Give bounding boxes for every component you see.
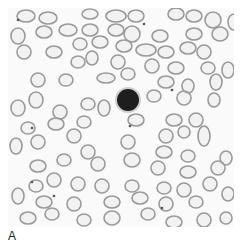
- red-blood-cell: [71, 177, 85, 191]
- platelet: [143, 23, 146, 26]
- platelet: [31, 181, 34, 184]
- red-blood-cell: [82, 24, 98, 36]
- red-blood-cell: [203, 177, 217, 191]
- red-blood-cell: [47, 173, 61, 187]
- red-blood-cell: [220, 212, 232, 224]
- red-blood-cell: [31, 73, 45, 87]
- red-blood-cell: [186, 28, 202, 40]
- red-blood-cell: [12, 188, 24, 204]
- red-blood-cell: [31, 135, 45, 149]
- red-blood-cell: [82, 9, 98, 19]
- red-blood-cell: [71, 56, 85, 68]
- red-blood-cell: [128, 114, 144, 126]
- red-blood-cell: [121, 68, 135, 80]
- red-blood-cell: [98, 100, 110, 116]
- red-blood-cell: [210, 74, 222, 90]
- red-blood-cell: [136, 44, 156, 56]
- blood-smear-image: [8, 8, 234, 227]
- red-blood-cell: [125, 180, 139, 192]
- red-blood-cell: [180, 166, 196, 178]
- red-blood-cell: [67, 197, 81, 211]
- red-blood-cell: [57, 154, 71, 166]
- micrograph-canvas: [8, 8, 234, 227]
- red-blood-cell: [17, 10, 35, 22]
- red-blood-cell: [95, 179, 109, 193]
- red-blood-cell: [180, 42, 196, 54]
- red-blood-cell: [205, 12, 221, 28]
- red-blood-cell: [124, 153, 140, 167]
- red-blood-cell: [36, 196, 52, 208]
- red-blood-cell: [212, 27, 228, 41]
- platelet: [171, 89, 174, 92]
- red-blood-cell: [77, 116, 91, 128]
- red-blood-cell: [211, 161, 225, 175]
- red-blood-cell: [104, 211, 120, 225]
- red-blood-cell: [36, 26, 52, 38]
- red-blood-cell: [157, 182, 171, 194]
- red-blood-cell: [132, 192, 148, 204]
- red-blood-cell: [73, 38, 87, 50]
- red-blood-cell: [197, 213, 211, 227]
- red-blood-cell: [198, 126, 210, 146]
- red-blood-cell: [59, 24, 77, 36]
- red-blood-cell: [141, 208, 155, 220]
- red-blood-cell: [86, 51, 98, 65]
- red-blood-cell: [116, 40, 132, 52]
- red-blood-cell: [152, 30, 168, 42]
- red-blood-cell: [158, 76, 174, 88]
- red-blood-cell: [181, 150, 195, 162]
- red-blood-cell: [39, 12, 57, 24]
- red-blood-cell: [45, 208, 59, 220]
- red-blood-cell: [151, 161, 165, 175]
- red-blood-cell: [20, 212, 36, 224]
- red-blood-cell: [177, 91, 191, 105]
- red-blood-cell: [166, 216, 182, 227]
- red-blood-cell: [208, 93, 220, 107]
- red-blood-cell: [177, 183, 191, 197]
- red-blood-cell: [201, 62, 215, 74]
- red-blood-cell: [91, 157, 105, 171]
- red-blood-cell: [189, 196, 203, 208]
- red-blood-cell: [168, 8, 184, 20]
- red-blood-cell: [10, 138, 22, 154]
- red-blood-cell: [81, 145, 95, 159]
- red-blood-cell: [106, 10, 126, 22]
- red-blood-cell: [92, 36, 108, 48]
- red-blood-cell: [48, 118, 64, 130]
- red-blood-cell: [159, 129, 173, 143]
- platelet: [129, 125, 132, 128]
- panel-label: A: [8, 229, 16, 243]
- red-blood-cell: [67, 129, 81, 143]
- red-blood-cell: [11, 28, 25, 44]
- red-blood-cell: [128, 10, 144, 22]
- red-blood-cell: [197, 45, 211, 59]
- red-blood-cell: [158, 46, 174, 58]
- red-blood-cell: [108, 24, 124, 36]
- red-blood-cell: [17, 45, 31, 59]
- red-blood-cell: [168, 62, 184, 74]
- red-blood-cell: [53, 105, 67, 119]
- platelet: [31, 127, 34, 130]
- red-blood-cell: [77, 214, 91, 226]
- red-blood-cell: [228, 14, 234, 30]
- red-blood-cell: [186, 10, 202, 22]
- red-blood-cell: [189, 113, 203, 127]
- platelet: [53, 195, 56, 198]
- red-blood-cell: [111, 55, 125, 69]
- red-blood-cell: [46, 46, 62, 58]
- red-blood-cell: [30, 160, 46, 172]
- red-blood-cell: [97, 73, 115, 83]
- red-blood-cell: [147, 90, 161, 102]
- red-blood-cell: [178, 126, 190, 138]
- red-blood-cell: [81, 98, 95, 110]
- red-blood-cell: [11, 100, 25, 116]
- platelet: [17, 19, 20, 22]
- red-blood-cell: [166, 114, 182, 126]
- red-blood-cell: [59, 74, 73, 86]
- red-blood-cell: [222, 62, 234, 78]
- platelet: [161, 207, 164, 210]
- red-blood-cell: [121, 135, 135, 149]
- red-blood-cell: [156, 146, 172, 158]
- red-blood-cell: [222, 187, 234, 201]
- red-blood-cell: [29, 92, 43, 108]
